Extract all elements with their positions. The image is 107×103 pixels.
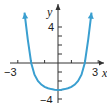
x-axis-label: x <box>102 67 107 79</box>
y-tick-label-min: −4 <box>40 95 53 103</box>
y-axis-label: y <box>47 6 52 18</box>
x-tick-label-max: 3 <box>92 67 98 78</box>
y-tick-label-max: 4 <box>48 22 54 33</box>
x-tick-label-min: −3 <box>4 67 17 78</box>
graph-plot <box>0 0 107 103</box>
